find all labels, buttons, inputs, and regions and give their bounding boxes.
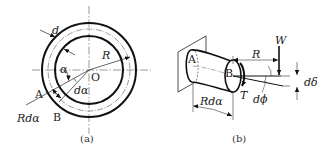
dphi-arc — [264, 76, 266, 82]
dphi-leader — [262, 81, 266, 93]
dalpha-arc — [74, 79, 76, 82]
caption-a: (a) — [80, 133, 94, 144]
label-B: B — [53, 111, 61, 124]
label-Rdalpha: Rdα — [16, 112, 40, 125]
label-dalpha: dα — [74, 84, 89, 97]
caption-b: (b) — [232, 133, 246, 144]
label-A-b: A — [187, 53, 197, 66]
label-W: W — [275, 34, 288, 47]
label-B-b: B — [225, 67, 233, 80]
rdalpha-arc — [53, 90, 61, 99]
label-ddelta: dδ — [304, 76, 318, 89]
label-T: T — [240, 89, 249, 102]
label-Rdalpha-b: Rdα — [199, 95, 223, 108]
label-R: R — [101, 49, 110, 62]
label-R-b: R — [251, 48, 260, 61]
figure-a: d R α O A dα Rdα B (a) — [16, 6, 151, 144]
ring-torsion-diagram: d R α O A dα Rdα B (a) — [0, 0, 336, 156]
label-alpha: α — [60, 63, 68, 76]
label-O: O — [91, 71, 100, 84]
d-arrow-inner — [64, 49, 75, 55]
rotation-arc-top — [268, 66, 271, 76]
figure-b: A B R W T dϕ dδ Rdα (b) — [178, 34, 318, 144]
label-A: A — [34, 88, 44, 101]
label-d: d — [52, 24, 59, 37]
label-dphi: dϕ — [253, 93, 268, 106]
